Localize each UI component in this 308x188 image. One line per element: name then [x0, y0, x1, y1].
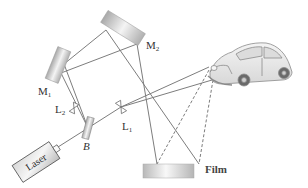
- lens-l1-icon: [115, 100, 126, 113]
- mirror-m1: [45, 47, 71, 84]
- beam-paths: [58, 30, 212, 164]
- film-plate: [143, 164, 194, 178]
- beam-l2-to-m1-b: [61, 73, 88, 128]
- laser-device: Laser: [12, 139, 64, 182]
- reference-beam-b: [137, 44, 157, 164]
- car-object: [208, 43, 292, 86]
- object-beam-lower: [121, 80, 212, 107]
- mirror-m2: [101, 10, 146, 45]
- label-l2: L2: [55, 104, 65, 117]
- label-m1: M1: [38, 86, 51, 99]
- label-l1: L1: [122, 121, 132, 134]
- beam-m1-to-m2-a: [64, 30, 106, 64]
- object-beam-upper: [121, 67, 209, 107]
- scattered-beams: [157, 70, 213, 164]
- label-m2: M2: [146, 40, 159, 53]
- beam-splitter-to-m1: [64, 64, 88, 128]
- label-beam-splitter: B: [83, 141, 90, 152]
- holography-diagram: Laser M2 M1 L2 L1 B Film: [0, 0, 308, 188]
- scattered-beam-b: [199, 80, 213, 164]
- lens-l2-icon: [69, 102, 79, 114]
- label-film: Film: [205, 164, 227, 175]
- beam-splitter-to-l1: [88, 107, 121, 128]
